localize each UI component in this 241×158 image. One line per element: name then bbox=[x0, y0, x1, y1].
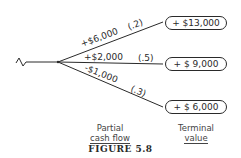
partial-cash-flow-line-2: cash flow bbox=[90, 133, 130, 144]
partial-cash-flow-line-1: Partial bbox=[80, 123, 140, 133]
break-symbol-icon bbox=[16, 58, 58, 66]
partial-cash-flow-label: Partial cash flow bbox=[80, 123, 140, 144]
branch-line-3 bbox=[58, 62, 163, 107]
terminal-value-line-1: Terminal bbox=[165, 123, 227, 133]
branch-2-cash-flow: +$2,000 bbox=[84, 52, 123, 62]
terminal-value-box-3: + $ 6,000 bbox=[165, 100, 227, 114]
terminal-value-line-2: value bbox=[184, 133, 207, 144]
terminal-value-label: Terminal value bbox=[165, 123, 227, 144]
branch-3-cash-flow: -$1,000 bbox=[83, 63, 119, 85]
branch-3-probability: (.3) bbox=[129, 84, 147, 99]
branch-1-cash-flow: +$6,000 bbox=[79, 26, 119, 49]
branch-2-probability: (.5) bbox=[138, 53, 154, 63]
figure-caption: FIGURE 5.8 bbox=[0, 144, 241, 154]
terminal-value-box-1: + $13,000 bbox=[165, 16, 227, 30]
terminal-value-box-2: + $ 9,000 bbox=[165, 57, 227, 71]
